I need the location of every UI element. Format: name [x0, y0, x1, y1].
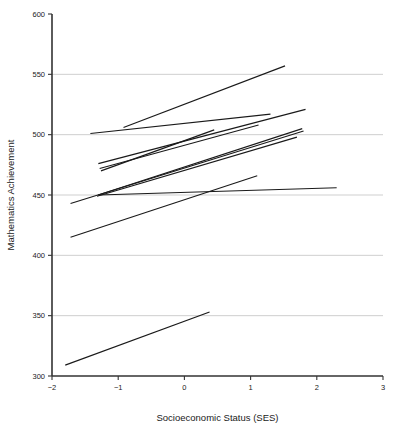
x-tick-label-2: 2 [315, 383, 319, 392]
y-tick-label-600: 600 [32, 10, 45, 19]
y-tick-label-550: 550 [32, 70, 45, 79]
y-tick-label-400: 400 [32, 251, 45, 260]
scatter-line-chart: 300350400450500550600 −2−10123 Socioecon… [0, 0, 394, 429]
chart-background [0, 0, 394, 429]
y-tick-label-450: 450 [32, 191, 45, 200]
chart-container: 300350400450500550600 −2−10123 Socioecon… [0, 0, 394, 429]
x-tick-label-1: 1 [249, 383, 253, 392]
x-tick-label-0: 0 [182, 383, 186, 392]
y-tick-label-350: 350 [32, 311, 45, 320]
x-tick-label--2: −2 [48, 383, 57, 392]
y-axis-label: Mathematics Achievement [5, 139, 16, 250]
x-tick-label-3: 3 [381, 383, 385, 392]
x-tick-label--1: −1 [114, 383, 123, 392]
y-tick-label-500: 500 [32, 130, 45, 139]
x-axis-label: Socioeconomic Status (SES) [157, 412, 279, 423]
y-tick-label-300: 300 [32, 372, 45, 381]
